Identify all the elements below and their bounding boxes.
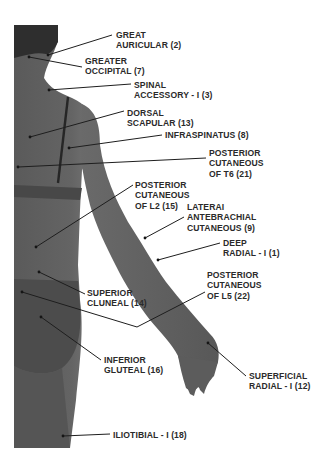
label-line: CUTANEOUS: [135, 190, 190, 200]
label-greater-occipital: GREATEROCCIPITAL (7): [85, 56, 145, 77]
label-posterior-cutaneous-t6: POSTERIORCUTANEOUSOF T6 (21): [209, 148, 264, 179]
label-line: LATERAI: [187, 202, 256, 212]
label-inferior-gluteal: INFERIORGLUTEAL (16): [104, 355, 163, 376]
label-great-auricular: GREATAURICULAR (2): [116, 30, 181, 51]
thigh: [14, 366, 70, 448]
label-line: GREATER: [85, 56, 145, 66]
label-line: CUTANEOUS: [207, 280, 262, 290]
nerve-point-posterior-cutaneous-t6: [17, 166, 20, 169]
nerve-point-infraspinatus: [68, 147, 71, 150]
nerve-point-greater-occipital: [28, 56, 31, 59]
label-line: AURICULAR (2): [116, 40, 181, 50]
label-posterior-cutaneous-l5: POSTERIORCUTANEOUSOF L5 (22): [207, 270, 262, 301]
label-line: OCCIPITAL (7): [85, 66, 145, 76]
label-line: DORSAL: [127, 108, 194, 118]
label-line: INFERIOR: [104, 355, 163, 365]
label-deep-radial: DEEPRADIAL - I (1): [223, 238, 280, 259]
label-superficial-radial: SUPERFICIALRADIAL - I (12): [249, 371, 311, 392]
label-line: ACCESSORY - I (3): [134, 90, 213, 100]
label-lateral-antebrachial-cutaneous: LATERAIANTEBRACHIALCUTANEOUS (9): [187, 202, 256, 233]
label-iliotibial: ILIOTIBIAL - I (18): [113, 430, 187, 440]
nerve-point-superficial-radial: [207, 342, 210, 345]
label-line: POSTERIOR: [209, 148, 264, 158]
nerve-point-dorsal-scapular: [29, 136, 32, 139]
label-infraspinatus: INFRASPINATUS (8): [165, 130, 249, 140]
label-line: RADIAL - I (12): [249, 381, 311, 391]
label-line: SCAPULAR (13): [127, 118, 194, 128]
body-diagram: [0, 0, 326, 462]
label-superior-cluneal: SUPERIORCLUNEAL (14): [87, 288, 147, 309]
label-line: INFRASPINATUS (8): [165, 130, 249, 140]
label-line: SUPERIOR: [87, 288, 147, 298]
nerve-point-iliotibial: [62, 435, 65, 438]
label-line: DEEP: [223, 238, 280, 248]
label-line: ILIOTIBIAL - I (18): [113, 430, 187, 440]
label-line: POSTERIOR: [207, 270, 262, 280]
label-line: SPINAL: [134, 80, 213, 90]
arm-silhouette: [80, 104, 219, 391]
label-line: OF T6 (21): [209, 169, 264, 179]
nerve-point-deep-radial: [157, 259, 160, 262]
label-posterior-cutaneous-l2: POSTERIORCUTANEOUSOF L2 (15): [135, 180, 190, 211]
label-line: CUTANEOUS (9): [187, 223, 256, 233]
nerve-point-superior-cluneal: [38, 271, 41, 274]
nerve-point-inferior-gluteal: [40, 316, 43, 319]
label-dorsal-scapular: DORSALSCAPULAR (13): [127, 108, 194, 129]
label-spinal-accessory: SPINALACCESSORY - I (3): [134, 80, 213, 101]
label-line: ANTEBRACHIAL: [187, 212, 256, 222]
nerve-point-posterior-cutaneous-l5: [21, 291, 24, 294]
leader-line-lateral-antebrachial-cutaneous: [145, 217, 184, 238]
label-line: CUTANEOUS: [209, 158, 264, 168]
nerve-point-lateral-antebrachial-cutaneous: [144, 237, 147, 240]
label-line: OF L5 (22): [207, 291, 262, 301]
leader-line-spinal-accessory: [49, 84, 131, 90]
label-line: GLUTEAL (16): [104, 365, 163, 375]
label-line: OF L2 (15): [135, 201, 190, 211]
nerve-point-posterior-cutaneous-l2: [35, 246, 38, 249]
label-line: SUPERFICIAL: [249, 371, 311, 381]
label-line: POSTERIOR: [135, 180, 190, 190]
nerve-point-spinal-accessory: [48, 89, 51, 92]
leader-line-deep-radial: [158, 243, 220, 260]
label-line: CLUNEAL (14): [87, 298, 147, 308]
label-line: RADIAL - I (1): [223, 248, 280, 258]
label-line: GREAT: [116, 30, 181, 40]
nerve-point-great-auricular: [47, 54, 50, 57]
